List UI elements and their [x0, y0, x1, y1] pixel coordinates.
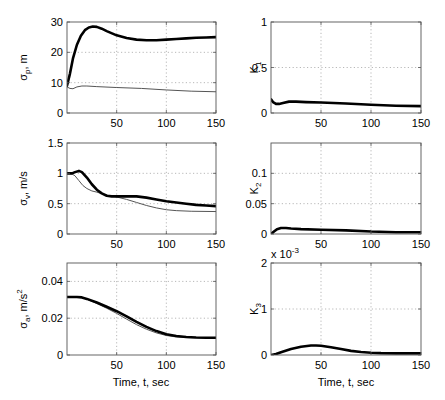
x-tick-label: 100 — [157, 238, 175, 250]
y-tick-label: 1.5 — [48, 137, 63, 149]
y-axis-label: σp, m — [17, 54, 32, 81]
subplot-k2: 00.050.150100150K2 — [246, 143, 431, 250]
figure: 010203050100150σp, m 00.5150100150K1 00.… — [0, 0, 445, 400]
x-tick-label: 100 — [157, 117, 175, 129]
y-tick-label: 0 — [57, 228, 63, 240]
exponent-label: x 10-3 — [271, 246, 299, 260]
subplot-sigma-p: 010203050100150σp, m — [17, 16, 225, 129]
x-axis-label-right: Time, t, sec — [318, 376, 375, 388]
y-axis-label: σv, m/s — [17, 171, 32, 206]
y-tick-label: 10 — [51, 77, 63, 89]
axes-box — [67, 143, 216, 234]
y-tick-label: 0.5 — [48, 198, 63, 210]
series-thick — [271, 228, 421, 234]
subplot-k1: 00.5150100150K1 — [248, 16, 430, 129]
y-tick-label: 0 — [57, 349, 63, 361]
y-axis-label: σa, m/s2 — [15, 289, 32, 329]
series-thin — [67, 297, 216, 338]
y-tick-label: 0.02 — [42, 312, 63, 324]
x-tick-label: 100 — [362, 117, 380, 129]
y-tick-label: 30 — [51, 16, 63, 28]
x-tick-label: 50 — [111, 359, 123, 371]
y-tick-label: 0.1 — [252, 167, 267, 179]
x-tick-label: 150 — [207, 117, 225, 129]
series-thick — [67, 171, 216, 206]
y-tick-label: 0 — [261, 349, 267, 361]
series-thin — [67, 86, 216, 92]
y-tick-label: 0 — [261, 107, 267, 119]
x-tick-label: 150 — [207, 359, 225, 371]
series-thick — [271, 346, 421, 355]
y-axis-label: K2 — [248, 182, 263, 194]
series-thick — [67, 27, 216, 86]
series-thick — [67, 297, 216, 338]
y-tick-label: 1 — [57, 167, 63, 179]
x-tick-label: 150 — [207, 238, 225, 250]
y-tick-label: 20 — [51, 46, 63, 58]
series-thick — [271, 99, 421, 106]
axes-box — [67, 22, 216, 113]
x-tick-label: 50 — [111, 117, 123, 129]
y-tick-label: 2 — [261, 257, 267, 269]
x-tick-label: 100 — [157, 359, 175, 371]
x-tick-label: 50 — [111, 238, 123, 250]
x-tick-label: 50 — [315, 117, 327, 129]
x-tick-label: 150 — [412, 238, 430, 250]
axes-box — [67, 263, 216, 355]
y-tick-label: 1 — [261, 16, 267, 28]
subplot-sigma-v: 00.511.550100150σv, m/s — [17, 137, 225, 250]
x-tick-label: 50 — [315, 359, 327, 371]
x-tick-label: 100 — [362, 238, 380, 250]
x-tick-label: 150 — [412, 359, 430, 371]
x-axis-label-left: Time, t, sec — [113, 376, 170, 388]
subplot-k3: 01250100150K3x 10-3 — [248, 246, 430, 371]
subplot-sigma-a: 00.020.0450100150σa, m/s2 — [15, 263, 225, 371]
y-tick-label: 0.05 — [246, 198, 267, 210]
axes-box — [271, 143, 421, 234]
x-tick-label: 150 — [412, 117, 430, 129]
y-tick-label: 0 — [57, 107, 63, 119]
x-tick-label: 50 — [315, 238, 327, 250]
y-tick-label: 0.04 — [42, 275, 63, 287]
x-tick-label: 100 — [362, 359, 380, 371]
y-tick-label: 0 — [261, 228, 267, 240]
